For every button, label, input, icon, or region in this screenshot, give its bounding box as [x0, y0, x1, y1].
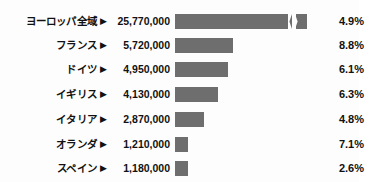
row-value: 5,720,000 — [110, 40, 175, 51]
row-percent: 6.1% — [308, 64, 369, 75]
bar-segment — [175, 87, 218, 102]
chart-row: イギリス ▶ 4,130,000 6.3% — [0, 82, 359, 106]
row-percent: 8.8% — [308, 40, 369, 51]
bar-track — [175, 33, 308, 57]
bar-segment — [175, 38, 233, 53]
triangle-right-marker-icon: ▶ — [97, 140, 110, 149]
bar-segment-stub — [296, 14, 307, 29]
row-percent: 4.8% — [308, 114, 369, 125]
chart-row: ヨーロッパ全域 ▶ 25,770,000 4.9% — [0, 9, 359, 33]
row-percent: 4.9% — [308, 16, 369, 27]
triangle-right-marker-icon: ▶ — [97, 90, 110, 99]
bar-track — [175, 107, 308, 131]
row-value: 4,950,000 — [110, 64, 175, 75]
row-label: ドイツ — [0, 64, 97, 75]
bar-segment-main — [175, 14, 292, 29]
bar-segment — [175, 161, 188, 176]
bar-track — [175, 9, 308, 33]
bar-segment — [175, 62, 228, 77]
row-label: イタリア — [0, 114, 97, 125]
triangle-right-marker-icon: ▶ — [97, 164, 110, 173]
bar-segment — [175, 137, 188, 152]
bar-track — [175, 82, 308, 106]
bar-segment — [175, 112, 204, 127]
row-percent: 2.6% — [308, 163, 369, 174]
row-value: 2,870,000 — [110, 114, 175, 125]
row-label: スペイン — [0, 163, 97, 174]
row-label: イギリス — [0, 89, 97, 100]
chart-row: スペイン ▶ 1,180,000 2.6% — [0, 156, 359, 180]
chart-row: フランス ▶ 5,720,000 8.8% — [0, 33, 359, 57]
row-percent: 7.1% — [308, 139, 369, 150]
chart-row: イタリア ▶ 2,870,000 4.8% — [0, 107, 359, 131]
chart-row: オランダ ▶ 1,210,000 7.1% — [0, 132, 359, 156]
bar-track — [175, 57, 308, 81]
row-label: ヨーロッパ全域 — [0, 16, 97, 27]
bar-track — [175, 156, 308, 180]
row-percent: 6.3% — [308, 89, 369, 100]
bar-track — [175, 132, 308, 156]
row-value: 4,130,000 — [110, 89, 175, 100]
triangle-right-marker-icon: ▶ — [97, 41, 110, 50]
row-value: 1,210,000 — [110, 139, 175, 150]
triangle-right-marker-icon: ▶ — [97, 17, 110, 26]
row-value: 1,180,000 — [110, 163, 175, 174]
row-label: フランス — [0, 40, 97, 51]
chart-row: ドイツ ▶ 4,950,000 6.1% — [0, 57, 359, 81]
row-label: オランダ — [0, 139, 97, 150]
triangle-right-marker-icon: ▶ — [97, 65, 110, 74]
triangle-right-marker-icon: ▶ — [97, 115, 110, 124]
row-value: 25,770,000 — [110, 16, 175, 27]
